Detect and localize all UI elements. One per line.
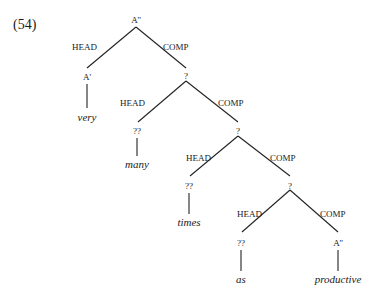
edge-label-head: HEAD [72, 42, 97, 52]
node-a-double-bar: A'' [333, 238, 343, 248]
edge-label-comp: COMP [320, 209, 346, 219]
edge-label-head: HEAD [120, 98, 145, 108]
edge-label-head: HEAD [186, 153, 211, 163]
edge-label-comp: COMP [218, 98, 244, 108]
syntax-tree-figure: (54) A'' HEAD COMP A' very ? HEAD COMP [0, 0, 372, 292]
leaf-times: times [177, 216, 200, 228]
node-question-1: ? [184, 71, 188, 81]
node-double-question-2: ?? [185, 181, 193, 191]
node-question-2: ? [236, 126, 240, 136]
edge-label-comp: COMP [163, 42, 189, 52]
leaf-productive: productive [315, 273, 362, 285]
leaf-very: very [78, 111, 97, 123]
leaf-many: many [125, 158, 149, 170]
node-double-question-1: ?? [133, 126, 141, 136]
node-a-bar: A' [83, 72, 91, 82]
leaf-as: as [236, 273, 246, 285]
node-double-question-3: ?? [237, 238, 245, 248]
node-root-a-double-bar: A'' [131, 15, 141, 25]
edge-label-head: HEAD [237, 209, 262, 219]
edge-label-comp: COMP [270, 153, 296, 163]
node-question-3: ? [288, 181, 292, 191]
